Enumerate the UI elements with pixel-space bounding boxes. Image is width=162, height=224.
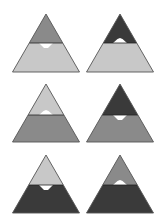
triangle-bottom-section xyxy=(87,185,154,213)
triangle-bottom-section xyxy=(13,115,80,142)
triangle-top-section xyxy=(29,155,64,185)
triangle-top-section xyxy=(102,84,138,115)
triangle-4 xyxy=(87,84,154,142)
triangle-bottom-section xyxy=(87,43,154,72)
triangle-figure xyxy=(0,0,162,224)
triangle-2 xyxy=(87,14,154,72)
triangle-grid-canvas xyxy=(0,0,162,224)
triangle-1 xyxy=(13,14,80,72)
triangle-5 xyxy=(13,155,80,213)
triangle-top-section xyxy=(29,14,63,43)
triangle-6 xyxy=(87,155,154,213)
triangle-3 xyxy=(13,84,80,142)
